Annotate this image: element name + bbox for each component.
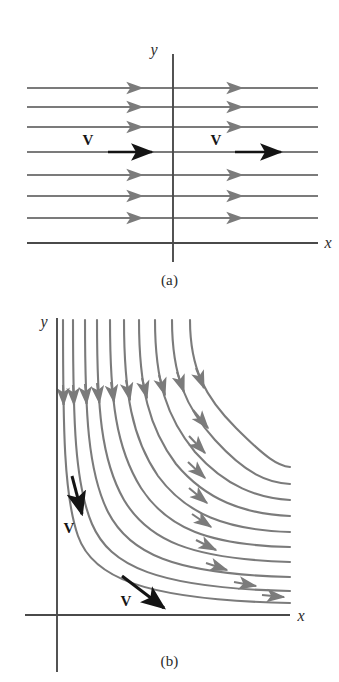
streamline xyxy=(85,320,290,577)
streamline-arrowhead xyxy=(63,385,64,405)
figure-root: y x V V (a) xyxy=(0,0,339,682)
streamline-arrowhead xyxy=(73,385,74,405)
velocity-label-lower: V xyxy=(121,593,132,609)
streamline-arrowhead xyxy=(111,382,114,402)
y-axis-label: y xyxy=(38,313,48,331)
x-axis-label: x xyxy=(296,607,304,624)
y-axis-label: y xyxy=(148,41,158,59)
velocity-label-left: V xyxy=(83,132,94,148)
streamline-arrowhead xyxy=(193,410,208,428)
axes-group-b xyxy=(25,318,290,672)
streamline-arrowhead xyxy=(159,375,165,395)
panel-b-svg: y x V V xyxy=(0,300,339,682)
streamline-group-b xyxy=(63,320,290,603)
streamline xyxy=(155,320,290,500)
streamline xyxy=(139,320,290,516)
streamline-arrowhead-group-top xyxy=(63,368,204,405)
streamline xyxy=(190,320,290,467)
velocity-label-right: V xyxy=(211,132,222,148)
streamline-arrowhead xyxy=(234,582,256,586)
x-axis-label: x xyxy=(323,234,331,251)
streamline xyxy=(73,320,290,591)
streamline-arrowhead xyxy=(188,462,205,478)
panel-b-caption: (b) xyxy=(0,653,339,670)
streamline-arrowhead xyxy=(189,436,205,453)
streamline-arrowhead xyxy=(206,563,227,570)
panel-a-uniform-flow: y x V V xyxy=(0,0,339,300)
panel-a-svg: y x V V xyxy=(0,0,339,300)
panel-a-caption: (a) xyxy=(0,272,339,289)
streamline-arrowhead xyxy=(196,540,216,550)
streamline-arrowhead xyxy=(177,372,184,392)
panel-b-corner-flow: y x V V xyxy=(0,300,339,682)
axes-group-a xyxy=(27,54,318,262)
velocity-label-upper: V xyxy=(64,520,75,536)
streamline-arrowhead xyxy=(262,595,284,597)
streamline-arrowhead xyxy=(196,368,204,388)
